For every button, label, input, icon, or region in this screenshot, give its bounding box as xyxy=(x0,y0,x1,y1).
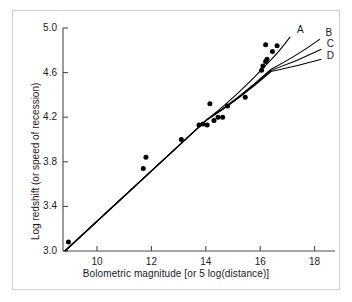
data-point xyxy=(207,101,212,106)
y-tick-label-3.8: 3.8 xyxy=(27,156,57,167)
data-point xyxy=(259,68,264,73)
data-point xyxy=(143,155,148,160)
y-tick-label-5.0: 5.0 xyxy=(27,22,57,33)
data-point xyxy=(275,43,280,48)
curve-label-B: B xyxy=(325,27,332,38)
x-tick-label-16: 16 xyxy=(245,256,275,267)
x-axis-label: Bolometric magnitude [or 5 log(distance)… xyxy=(0,268,352,279)
data-point xyxy=(260,63,265,68)
y-tick-label-3.0: 3.0 xyxy=(27,245,57,256)
model-curve-C xyxy=(65,49,322,251)
curve-label-A: A xyxy=(297,24,304,35)
x-tick-label-18: 18 xyxy=(300,256,330,267)
model-curve-D xyxy=(65,59,322,251)
y-tick-label-4.2: 4.2 xyxy=(27,111,57,122)
data-point xyxy=(216,115,221,120)
model-curve-B xyxy=(65,39,320,251)
x-tick-label-12: 12 xyxy=(136,256,166,267)
x-tick-label-10: 10 xyxy=(82,256,112,267)
y-tick-label-4.6: 4.6 xyxy=(27,67,57,78)
data-point xyxy=(265,57,270,62)
data-point xyxy=(243,95,248,100)
curve-label-D: D xyxy=(327,50,334,61)
data-points xyxy=(66,42,280,244)
data-point xyxy=(211,118,216,123)
figure-container: Log redshift (or speed of recession) Bol… xyxy=(0,0,352,302)
data-point xyxy=(141,166,146,171)
curve-label-C: C xyxy=(327,38,334,49)
y-tick-label-3.4: 3.4 xyxy=(27,200,57,211)
data-point xyxy=(263,42,268,47)
data-point xyxy=(225,104,230,109)
data-point xyxy=(179,137,184,142)
data-point xyxy=(220,115,225,120)
model-curves xyxy=(65,37,322,251)
data-point xyxy=(270,49,275,54)
data-point xyxy=(205,123,210,128)
model-curve-A xyxy=(65,37,290,251)
x-tick-label-14: 14 xyxy=(191,256,221,267)
